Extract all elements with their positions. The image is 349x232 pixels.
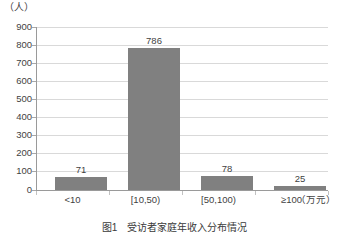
x-tick-label-lt-10: <10 <box>36 194 109 205</box>
y-axis-tick-labels: 900 800 700 600 500 400 300 200 100 0 <box>0 0 32 232</box>
y-tick-label: 0 <box>2 185 32 195</box>
gridline <box>36 99 328 100</box>
bar-50-100[interactable] <box>201 176 253 190</box>
y-tick-label: 500 <box>2 94 32 104</box>
gridline <box>36 81 328 82</box>
x-tick-label-10-50: [10,50) <box>109 194 182 205</box>
gridline <box>36 45 328 46</box>
gridline <box>36 135 328 136</box>
bar-chart-figure: （人） 900 800 700 600 500 400 300 200 100 … <box>0 0 349 232</box>
x-tick-label-50-100: [50,100) <box>182 194 255 205</box>
y-tick-label: 400 <box>2 112 32 122</box>
bar-value-label: 25 <box>274 173 326 184</box>
y-tick-label: 200 <box>2 148 32 158</box>
y-tick-label: 100 <box>2 166 32 176</box>
gridline <box>36 27 328 28</box>
y-tick-label: 900 <box>2 22 32 32</box>
bar-10-50[interactable] <box>128 48 180 190</box>
bar-value-label: 78 <box>201 163 253 174</box>
y-axis-line <box>36 27 37 191</box>
y-tick-label: 700 <box>2 58 32 68</box>
gridline <box>36 153 328 154</box>
gridline <box>36 117 328 118</box>
bar-lt-10[interactable] <box>55 177 107 190</box>
x-axis-unit-label: （万元） <box>296 194 336 205</box>
y-tick-label: 800 <box>2 40 32 50</box>
figure-caption: 图1 受访者家庭年收入分布情况 <box>0 222 349 232</box>
gridline <box>36 63 328 64</box>
bar-value-label: 786 <box>128 35 180 46</box>
y-tick-label: 600 <box>2 76 32 86</box>
y-tick-label: 300 <box>2 130 32 140</box>
bar-value-label: 71 <box>55 164 107 175</box>
